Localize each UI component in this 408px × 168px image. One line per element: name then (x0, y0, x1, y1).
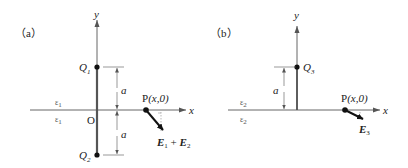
charge-q3-label: Q3 (303, 61, 315, 76)
medium-lower-label: ε1 (55, 115, 62, 126)
distance-label: a (273, 84, 279, 96)
panel-b: （b） x y Q3 a ε2 ε2 P(x,0) E3 (210, 9, 388, 137)
point-p-label: P(x,0) (142, 92, 169, 105)
panel-b-label: （b） (210, 27, 238, 39)
charge-q2-dot (94, 152, 99, 157)
field-vector-e3 (345, 110, 363, 119)
medium-upper-label: ε2 (240, 98, 247, 109)
distance-label-upper: a (121, 84, 127, 96)
charge-q1-label: Q1 (79, 61, 90, 76)
medium-lower-label: ε2 (240, 115, 247, 126)
distance-label-lower: a (121, 128, 127, 140)
panel-a: （a） x y Q1 Q2 a a O ε1 ε1 P(x,0) (15, 8, 194, 164)
y-axis-label: y (293, 9, 299, 21)
charge-q2-label: Q2 (79, 149, 91, 164)
field-label-e1-plus-e2: E1 + E2 (156, 136, 191, 150)
medium-upper-label: ε1 (55, 98, 62, 109)
panel-a-label: （a） (15, 27, 42, 39)
charge-q1-dot (94, 64, 99, 69)
x-axis-label: x (382, 104, 388, 116)
x-axis-label: x (188, 104, 194, 116)
field-label-e3: E3 (358, 123, 370, 137)
origin-label: O (87, 114, 95, 126)
y-axis-label: y (93, 8, 99, 20)
point-p-label: P(x,0) (341, 92, 368, 105)
figure-canvas: （a） x y Q1 Q2 a a O ε1 ε1 P(x,0) (0, 0, 408, 168)
